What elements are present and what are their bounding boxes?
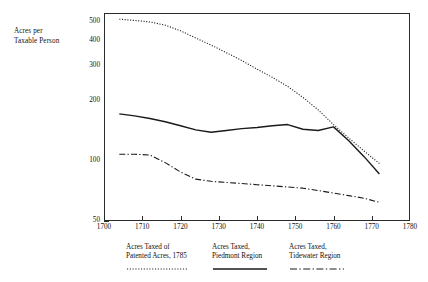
x-tick-mark [142, 216, 143, 221]
x-tick-mark [334, 216, 335, 221]
x-tick-label: 1780 [403, 223, 417, 231]
x-tick-mark [372, 216, 373, 221]
x-tick-label: 1760 [326, 223, 340, 231]
x-tick-mark [295, 216, 296, 221]
x-tick-label: 1730 [212, 223, 226, 231]
x-tick-label: 1720 [173, 223, 187, 231]
legend-label-patented-acres-line-1: Acres Taxed of [126, 243, 188, 252]
y-axis-tick-labels: 50100200300400500 [74, 13, 100, 221]
legend-item-piedmont: Acres Taxed, Piedmont Region [212, 243, 274, 272]
legend-swatch-patented-acres [126, 266, 188, 272]
x-tick-label: 1740 [250, 223, 264, 231]
chart-figure: Acres per Taxable Person 501002003004005… [0, 0, 428, 282]
chart-legend: Acres Taxed of Patented Acres, 1785 Acre… [104, 243, 410, 279]
x-tick-label: 1750 [288, 223, 302, 231]
x-tick-label: 1710 [135, 223, 149, 231]
plot-data-layer [104, 13, 410, 221]
x-tick-label: 1770 [365, 223, 379, 231]
series-line-2 [119, 154, 379, 202]
x-axis-tick-labels: 170017101720173017401750176017701780 [104, 223, 410, 237]
y-tick-label: 100 [76, 157, 100, 164]
series-line-1 [119, 114, 379, 174]
legend-label-tidewater-line-2: Tidewater Region [289, 252, 351, 261]
legend-label-piedmont-line-1: Acres Taxed, [212, 243, 274, 252]
legend-label-patented-acres-line-2: Patented Acres, 1785 [126, 252, 188, 261]
legend-label-piedmont-line-2: Piedmont Region [212, 252, 274, 261]
y-tick-label: 500 [76, 18, 100, 25]
x-tick-label: 1700 [97, 223, 111, 231]
legend-swatch-tidewater [289, 266, 351, 272]
x-tick-mark [181, 216, 182, 221]
legend-item-patented-acres: Acres Taxed of Patented Acres, 1785 [126, 243, 188, 272]
y-tick-mark [104, 221, 109, 222]
series-line-0 [119, 19, 379, 163]
y-tick-label: 200 [76, 97, 100, 104]
y-tick-label: 300 [76, 62, 100, 69]
y-tick-label: 400 [76, 37, 100, 44]
series-lines [104, 13, 410, 221]
legend-label-tidewater-line-1: Acres Taxed, [289, 243, 351, 252]
legend-item-tidewater: Acres Taxed, Tidewater Region [289, 243, 351, 272]
legend-swatch-piedmont [212, 266, 274, 272]
x-tick-mark [219, 216, 220, 221]
x-tick-mark [257, 216, 258, 221]
